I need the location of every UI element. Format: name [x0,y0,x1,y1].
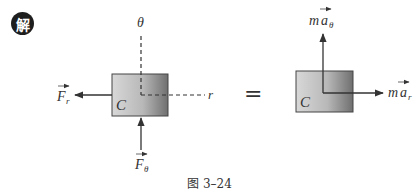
force-theta-label: F θ [134,154,149,174]
body-label-right: C [300,94,311,110]
svg-text:a: a [400,85,407,100]
equals-sign: = [244,81,262,106]
inertia-theta-label: m a θ [309,9,334,30]
body-label-left: C [116,97,127,113]
right-kinetic-diagram: C m a θ m a r [296,9,412,112]
svg-text:m: m [309,13,319,28]
svg-text:m: m [388,85,398,100]
svg-text:F: F [134,157,144,172]
svg-text:r: r [66,96,70,106]
svg-text:θ: θ [144,164,149,174]
left-free-body: C θ r F r F θ [56,15,214,174]
force-r-label: F r [56,86,70,106]
free-body-diagram: C θ r F r F θ = C m a θ [0,0,419,195]
svg-text:a: a [321,13,328,28]
r-axis-label: r [208,87,214,102]
inertia-r-label: m a r [388,82,412,102]
figure-caption: 图 3–24 [0,174,419,191]
svg-text:r: r [408,92,412,102]
svg-text:F: F [56,89,66,104]
theta-axis-label: θ [137,15,144,30]
svg-text:θ: θ [329,20,334,30]
